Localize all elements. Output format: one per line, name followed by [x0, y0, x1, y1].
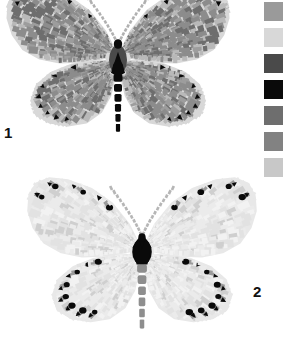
margin-spot [64, 282, 70, 287]
margin-spot [214, 282, 221, 288]
antenna-segment [148, 219, 152, 223]
wing-mosaic-tile [66, 250, 69, 254]
antenna-segment [98, 12, 102, 16]
wing-mosaic-tile [28, 46, 38, 54]
antenna-segment [119, 36, 123, 40]
antenna-segment [137, 227, 141, 231]
antenna-segment [104, 20, 108, 24]
wing-fringe-dash [198, 263, 203, 266]
wing-mosaic-tile [151, 58, 155, 61]
specimen-label-1: 1 [4, 125, 12, 140]
swatch-mid-gray [264, 132, 283, 151]
wing-fringe-dash [180, 257, 184, 260]
margin-spot [197, 189, 204, 195]
wing-mosaic-tile [216, 244, 222, 249]
wing-mosaic-tile [99, 251, 103, 257]
antenna-segment [131, 16, 135, 20]
antenna-segment [95, 8, 99, 12]
wing-mosaic-tile [190, 251, 194, 256]
wing-fringe-dash [67, 270, 71, 274]
wing-fringe-dash [169, 256, 172, 260]
wing-fringe-dash [154, 63, 158, 66]
wing-mosaic-tile [168, 58, 172, 61]
antenna-segment [153, 211, 157, 215]
wing-mosaic-tile [40, 54, 43, 58]
antenna-segment [106, 24, 110, 28]
wing-mosaic-tile [59, 58, 62, 63]
wing-fringe-dash [144, 62, 148, 65]
wing-mosaic-tile [211, 249, 215, 255]
antenna-segment [143, 0, 147, 4]
wing-mosaic-tile [164, 58, 167, 62]
wing-fringe-dash [87, 62, 92, 64]
wing-fringe-dash [52, 71, 57, 75]
forewing-right [121, 0, 229, 63]
wing-fringe-dash [78, 63, 84, 67]
margin-spot [68, 302, 75, 308]
antenna-segment [134, 12, 138, 16]
wing-mosaic-tile [45, 56, 50, 60]
specimen-label-2: 2 [253, 284, 261, 299]
wing-mosaic-tile [51, 57, 54, 60]
abdomen-segment [115, 104, 121, 112]
wing-mosaic-tile [81, 58, 85, 62]
wing-mosaic-tile [188, 54, 193, 58]
antenna-segment [171, 185, 175, 190]
wing-mosaic-tile [100, 56, 102, 59]
margin-spot [239, 194, 246, 200]
wing-mosaic-tile [84, 252, 89, 256]
margin-spot [79, 307, 86, 313]
wing-mosaic-tile [93, 57, 96, 60]
antenna-segment [92, 4, 96, 8]
swatch-medium-dark-gray [264, 106, 283, 125]
wing-fringe-dash [73, 267, 76, 270]
wing-fringe-dash [110, 256, 115, 258]
wing-fringe-dash [67, 65, 71, 68]
wing-fringe-dash [88, 260, 93, 262]
wing-mosaic-tile [184, 251, 189, 256]
wing-mosaic-tile [165, 250, 168, 254]
swatch-black [264, 80, 283, 99]
wing-fringe-dash [100, 258, 104, 260]
antenna-segment [143, 227, 147, 231]
wing-mosaic-tile [224, 244, 228, 248]
margin-spot [39, 195, 44, 200]
wing-mosaic-tile [109, 252, 113, 255]
margin-spot [92, 310, 97, 315]
wing-mosaic-tile [195, 251, 200, 255]
head [138, 233, 145, 242]
wing-fringe-dash [46, 74, 50, 78]
wing-fringe-dash [42, 78, 46, 82]
abdomen-segment [114, 84, 122, 92]
antenna-segment [146, 223, 150, 227]
butterfly-2-svg [18, 160, 273, 356]
abdomen-segment [114, 94, 121, 102]
wing-mosaic-tile [157, 57, 160, 61]
wing-mosaic-tile [116, 250, 119, 254]
wing-mosaic-tile [96, 251, 99, 255]
abdomen-segment [138, 275, 147, 284]
wing-fringe-dash [180, 70, 184, 74]
antenna-segment [113, 36, 117, 40]
wing-mosaic-tile [170, 251, 174, 256]
forewing-left [11, 0, 115, 63]
wing-mosaic-tile [86, 58, 89, 61]
palette-legend [264, 2, 283, 184]
wing-mosaic-tile [57, 244, 65, 250]
wing-mosaic-tile [68, 58, 72, 63]
wing-mosaic-tile [96, 55, 99, 59]
wing-mosaic-tile [148, 57, 151, 61]
wing-mosaic-tile [89, 252, 94, 256]
antenna-segment [89, 0, 93, 4]
swatch-medium-gray [264, 2, 283, 21]
antenna-segment [127, 211, 131, 215]
wing-mosaic-tile [195, 53, 199, 58]
antenna-segment [109, 28, 113, 32]
antenna-segment [115, 194, 119, 198]
margin-spot [63, 294, 69, 299]
antenna-segment [126, 24, 130, 28]
wing-fringe-dash [166, 66, 169, 68]
wing-mosaic-tile [173, 57, 177, 63]
antenna-segment [140, 4, 144, 8]
wing-mosaic-tile [124, 249, 127, 254]
